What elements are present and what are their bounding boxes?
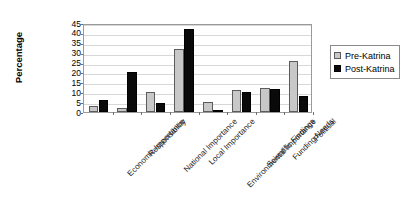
x-axis-tick-mark: [170, 112, 171, 115]
y-axis-tick-label: 35: [63, 39, 81, 48]
y-axis-tick-mark: [81, 93, 83, 94]
y-axis-tick-mark: [81, 24, 83, 25]
bar-post-katrina: [127, 72, 137, 112]
legend-label-pre-katrina: Pre-Katrina: [345, 51, 391, 61]
bar-post-katrina: [156, 103, 166, 112]
bar-pre-katrina: [117, 108, 127, 112]
bar-pre-katrina: [203, 102, 213, 112]
bar-post-katrina: [99, 100, 109, 112]
y-axis-tick-label: 5: [63, 99, 81, 108]
y-axis-tick-mark: [81, 103, 83, 104]
x-axis-tick-mark: [141, 112, 142, 115]
bar-post-katrina: [299, 96, 309, 112]
x-axis-tick-mark: [113, 112, 114, 115]
y-axis-tick-mark: [81, 44, 83, 45]
legend-label-post-katrina: Post-Katrina: [345, 64, 395, 74]
bar-pre-katrina: [260, 88, 270, 112]
bar-pre-katrina: [232, 90, 242, 112]
bar-post-katrina: [242, 92, 252, 112]
x-axis-tick-mark: [199, 112, 200, 115]
y-axis-tick-mark: [81, 113, 83, 114]
y-axis-tick-label: 40: [63, 29, 81, 38]
legend-item-post-katrina[interactable]: Post-Katrina: [334, 62, 395, 75]
y-axis-tick-label: 15: [63, 79, 81, 88]
bar-pre-katrina: [146, 92, 156, 112]
bar-pre-katrina: [289, 61, 299, 112]
y-axis-tick-mark: [81, 64, 83, 65]
y-axis-tick-label: 20: [63, 69, 81, 78]
plot-area: [83, 24, 312, 113]
bar-group: [141, 25, 170, 112]
bar-group: [227, 25, 256, 112]
bar-group: [199, 25, 228, 112]
y-axis-title: Percentage: [13, 18, 24, 98]
x-axis-tick-mark: [256, 112, 257, 115]
legend-item-pre-katrina[interactable]: Pre-Katrina: [334, 49, 395, 62]
y-axis-tick-label: 45: [63, 20, 81, 29]
y-axis-tick-label: 10: [63, 89, 81, 98]
y-axis-tick-mark: [81, 54, 83, 55]
chart-figure: Percentage 051015202530354045 Economic I…: [0, 0, 416, 219]
post-katrina-swatch-icon: [334, 65, 341, 72]
bar-pre-katrina: [174, 49, 184, 112]
bar-group: [84, 25, 113, 112]
y-axis-tick-label: 30: [63, 49, 81, 58]
x-axis-tick-mark: [284, 112, 285, 115]
x-axis-label: Responsibility: [146, 117, 187, 158]
bar-post-katrina: [213, 110, 223, 112]
y-axis-tick-labels: 051015202530354045: [60, 24, 81, 113]
bar-post-katrina: [270, 89, 280, 112]
y-axis-tick-label: 0: [63, 109, 81, 118]
x-axis-tick-mark: [313, 112, 314, 115]
pre-katrina-swatch-icon: [334, 52, 341, 59]
x-axis-tick-mark: [227, 112, 228, 115]
bar-group: [113, 25, 142, 112]
bar-group: [170, 25, 199, 112]
bar-group: [284, 25, 313, 112]
y-axis-tick-label: 25: [63, 59, 81, 68]
y-axis-tick-mark: [81, 83, 83, 84]
y-axis-tick-mark: [81, 34, 83, 35]
y-axis-tick-mark: [81, 73, 83, 74]
bar-group: [256, 25, 285, 112]
bar-pre-katrina: [89, 106, 99, 112]
bar-post-katrina: [184, 29, 194, 112]
chart-legend: Pre-Katrina Post-Katrina: [330, 45, 400, 79]
